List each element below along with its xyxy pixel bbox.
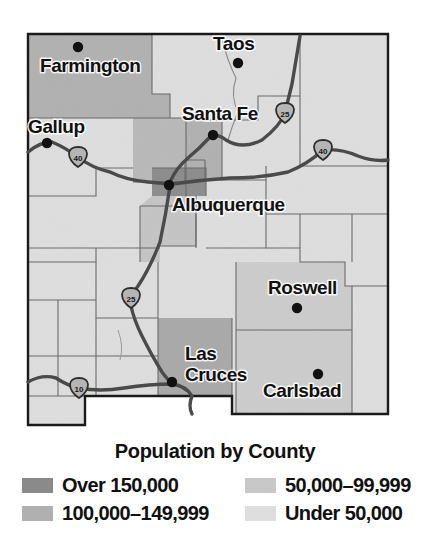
legend-label-50000-99999: 50,000–99,999 [285, 475, 411, 495]
city-label-carlsbad: Carlsbad [263, 380, 341, 401]
legend-swatch-100000-149999 [22, 506, 53, 521]
legend-item-under-50000: Under 50,000 [245, 500, 411, 526]
city-dot-roswell [292, 303, 302, 313]
county-san-juan [28, 34, 170, 118]
legend-label-under-50000: Under 50,000 [285, 503, 402, 523]
city-dot-carlsbad [313, 369, 323, 379]
legend: Population by County Over 150,000 100,00… [0, 432, 430, 549]
shield-route-number: 25 [127, 295, 136, 304]
city-dot-santa-fe [208, 130, 218, 140]
legend-item-over-150000: Over 150,000 [22, 472, 209, 498]
new-mexico-map: 4025402510 FarmingtonFarmingtonTaosTaosG… [0, 0, 430, 432]
legend-title: Population by County [0, 440, 430, 463]
county-eddy [236, 330, 352, 414]
city-label-santa-fe: Santa Fe [182, 103, 258, 124]
city-label-gallup: Gallup [28, 116, 85, 137]
city-label-farmington: Farmington [40, 55, 141, 76]
shield-route-number: 40 [74, 154, 83, 163]
city-dot-gallup [42, 138, 52, 148]
legend-swatch-under-50000 [245, 506, 276, 521]
legend-item-100000-149999: 100,000–149,999 [22, 500, 209, 526]
city-dot-taos [233, 58, 243, 68]
legend-swatch-over-150000 [22, 478, 53, 493]
map-svg: 4025402510 FarmingtonFarmingtonTaosTaosG… [0, 0, 430, 432]
shield-route-number: 25 [281, 110, 290, 119]
legend-item-50000-99999: 50,000–99,999 [245, 472, 411, 498]
city-label-albuquerque: Albuquerque [172, 194, 285, 215]
city-dot-las-cruces [167, 377, 177, 387]
legend-label-100000-149999: 100,000–149,999 [62, 503, 209, 523]
shield-route-number: 40 [319, 147, 328, 156]
city-label-roswell: Roswell [268, 277, 337, 298]
shield-route-number: 10 [75, 385, 84, 394]
city-label-taos: Taos [213, 33, 254, 54]
city-dot-albuquerque [164, 180, 174, 190]
population-by-county-figure: 4025402510 FarmingtonFarmingtonTaosTaosG… [0, 0, 430, 549]
legend-column-right: 50,000–99,999 Under 50,000 [245, 472, 411, 528]
legend-label-over-150000: Over 150,000 [62, 475, 178, 495]
city-dot-farmington [73, 42, 83, 52]
legend-column-left: Over 150,000 100,000–149,999 [22, 472, 209, 528]
legend-swatch-50000-99999 [245, 478, 276, 493]
